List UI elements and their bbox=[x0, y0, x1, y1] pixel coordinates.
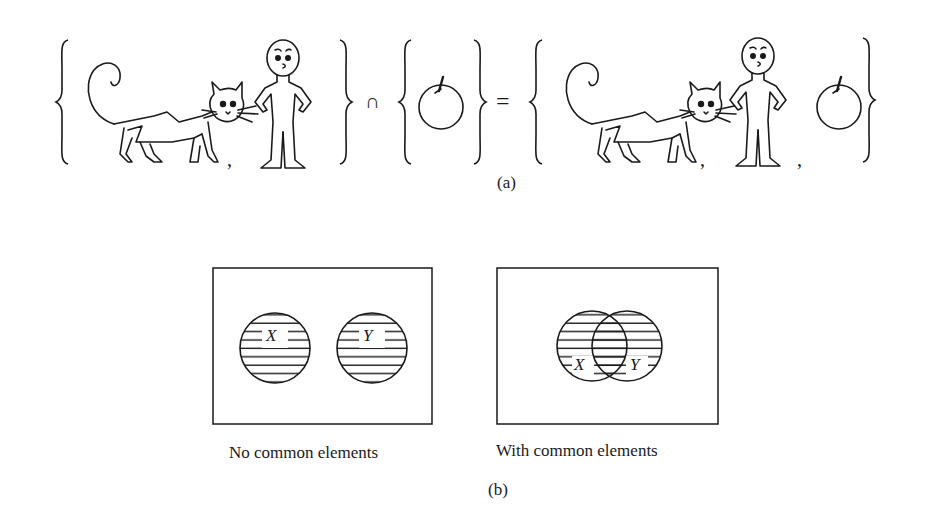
result-set bbox=[530, 38, 875, 166]
comma-separator: , bbox=[700, 148, 705, 171]
set-y-label: Y bbox=[363, 326, 372, 346]
intersection-operator: ∩ bbox=[365, 90, 379, 113]
boy-illustration bbox=[730, 38, 786, 166]
set-y-circle bbox=[337, 313, 407, 383]
set-x-circle bbox=[240, 313, 310, 383]
equals-sign: = bbox=[496, 88, 510, 115]
left-brace-icon bbox=[399, 40, 411, 164]
set-y-label: Y bbox=[630, 355, 639, 375]
right-brace-icon bbox=[474, 40, 486, 164]
left-brace-icon bbox=[56, 40, 68, 164]
diagram-title-disjoint: No common elements bbox=[229, 443, 378, 463]
cat-illustration bbox=[88, 63, 258, 162]
caption-b: (b) bbox=[488, 480, 508, 500]
boy-illustration bbox=[255, 40, 311, 168]
diagram-title-overlap: With common elements bbox=[496, 441, 658, 461]
set-x-label: X bbox=[574, 355, 584, 375]
left-brace-icon bbox=[530, 40, 542, 164]
comma-separator: , bbox=[797, 148, 802, 171]
caption-a: (a) bbox=[497, 173, 516, 193]
right-brace-icon bbox=[340, 40, 352, 164]
set-x-label: X bbox=[266, 326, 276, 346]
apple-illustration bbox=[817, 77, 861, 129]
overlapping-sets bbox=[557, 311, 662, 381]
cat-illustration bbox=[566, 63, 736, 162]
apple-illustration bbox=[419, 77, 463, 129]
right-brace-icon bbox=[863, 38, 875, 162]
apple-set bbox=[399, 40, 486, 164]
comma-separator: , bbox=[227, 148, 232, 171]
figure-canvas bbox=[0, 0, 925, 509]
left-set bbox=[56, 40, 352, 168]
